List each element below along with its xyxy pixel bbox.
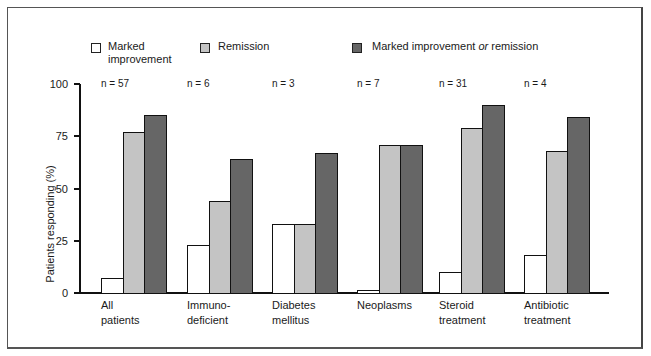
- bar: [439, 272, 462, 293]
- legend-swatch-remission: [200, 43, 210, 53]
- category-label: Steroidtreatment: [439, 298, 485, 328]
- y-tick-label: 25: [38, 235, 68, 247]
- legend-swatch-combined: [352, 43, 362, 53]
- n-label: n = 3: [272, 78, 295, 89]
- legend-swatch-marked-improvement: [91, 43, 101, 53]
- y-tick-label: 100: [38, 78, 68, 90]
- legend-label-remission: Remission: [218, 40, 269, 53]
- legend-text-post: remission: [488, 40, 538, 52]
- y-tick: [74, 240, 80, 242]
- bar: [357, 290, 380, 293]
- legend-label-line1: Marked: [108, 40, 172, 53]
- bar: [567, 117, 590, 293]
- category-label: Antibiotictreatment: [524, 298, 570, 328]
- category-label: Neoplasms: [357, 298, 412, 328]
- y-tick-label: 0: [38, 287, 68, 299]
- bar: [187, 245, 210, 293]
- y-tick-label: 50: [38, 183, 68, 195]
- category-label: Diabetesmellitus: [272, 298, 315, 328]
- bar: [272, 224, 295, 293]
- bar: [400, 145, 423, 293]
- bar: [209, 201, 232, 293]
- bar: [315, 153, 338, 293]
- n-label: n = 4: [524, 78, 547, 89]
- bar: [546, 151, 569, 293]
- bar: [482, 105, 505, 293]
- bar: [379, 145, 402, 293]
- bar: [144, 115, 167, 293]
- legend-label-line2: improvement: [108, 53, 172, 66]
- n-label: n = 6: [187, 78, 210, 89]
- category-label: Immuno-deficient: [187, 298, 230, 328]
- bar: [461, 128, 484, 293]
- y-tick: [74, 188, 80, 190]
- y-axis-label: Patients responding (%): [44, 144, 56, 304]
- category-label: Allpatients: [101, 298, 140, 328]
- bar: [524, 255, 547, 293]
- legend-text-em: or: [478, 40, 488, 52]
- n-label: n = 31: [439, 78, 467, 89]
- y-tick: [74, 135, 80, 137]
- bar: [230, 159, 253, 293]
- legend-label-combined: Marked improvement or remission: [372, 40, 538, 53]
- legend-label-marked-improvement: Marked improvement: [108, 40, 172, 66]
- bar: [101, 278, 124, 293]
- legend-text-pre: Marked improvement: [372, 40, 478, 52]
- bar: [123, 132, 146, 293]
- bar: [294, 224, 317, 293]
- y-tick-label: 75: [38, 130, 68, 142]
- n-label: n = 7: [357, 78, 380, 89]
- y-tick: [74, 83, 80, 85]
- n-label: n = 57: [101, 78, 129, 89]
- y-tick: [74, 292, 80, 294]
